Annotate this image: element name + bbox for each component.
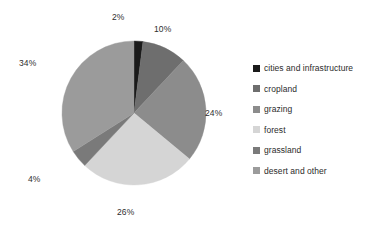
legend-item[interactable]: grassland [253,140,381,161]
legend-item[interactable]: forest [253,120,381,141]
pie-chart: 2%10%24%26%4%34% cities and infrastructu… [0,0,382,230]
legend-swatch-icon [253,126,260,133]
legend-item[interactable]: grazing [253,99,381,120]
legend-item[interactable]: cities and infrastructure [253,58,381,79]
legend-swatch-icon [253,106,260,113]
legend-item-label: cropland [264,85,297,94]
pie-data-label: 34% [19,59,36,68]
pie-slice-group [62,41,206,185]
pie-data-label: 10% [154,25,171,34]
pie-data-label: 24% [205,109,222,118]
legend-item-label: grazing [264,105,292,114]
legend-item-label: desert and other [264,167,327,176]
legend-item[interactable]: cropland [253,79,381,100]
legend-item[interactable]: desert and other [253,161,381,182]
pie-data-label: 2% [112,13,125,22]
legend-swatch-icon [253,147,260,154]
pie-plot-area: 2%10%24%26%4%34% [0,0,245,230]
legend-item-label: grassland [264,146,301,155]
pie-data-label: 4% [28,175,41,184]
chart-legend: cities and infrastructurecroplandgrazing… [253,58,381,181]
legend-item-label: cities and infrastructure [264,64,353,73]
pie-data-label: 26% [117,208,134,217]
legend-item-label: forest [264,126,286,135]
legend-swatch-icon [253,85,260,92]
legend-swatch-icon [253,167,260,174]
legend-swatch-icon [253,65,260,72]
